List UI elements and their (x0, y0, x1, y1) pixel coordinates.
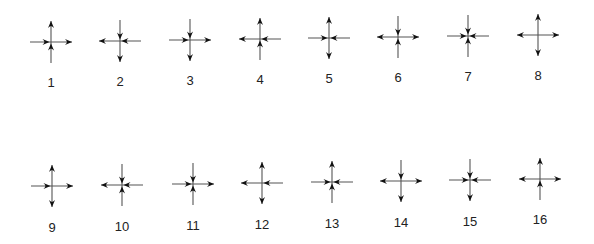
flow-glyph-diagram: 12345678910111213141516 (0, 0, 594, 244)
glyph-number-label: 15 (463, 214, 477, 229)
glyph-number-label: 13 (325, 216, 339, 231)
flow-glyph-8: 8 (517, 14, 559, 83)
glyph-number-label: 4 (256, 72, 263, 87)
flow-glyph-15: 15 (449, 159, 491, 229)
flow-glyph-10: 10 (101, 164, 143, 234)
glyph-number-label: 16 (533, 212, 547, 227)
glyph-grid: 12345678910111213141516 (30, 14, 561, 235)
glyph-number-label: 7 (464, 69, 471, 84)
flow-glyph-11: 11 (172, 163, 214, 233)
flow-glyph-1: 1 (30, 21, 72, 90)
glyph-number-label: 11 (186, 218, 200, 233)
glyph-number-label: 1 (47, 75, 54, 90)
glyph-number-label: 10 (115, 219, 129, 234)
flow-glyph-14: 14 (380, 160, 422, 230)
glyph-number-label: 12 (255, 217, 269, 232)
flow-glyph-5: 5 (308, 17, 350, 86)
glyph-number-label: 2 (116, 74, 123, 89)
glyph-number-label: 14 (394, 215, 408, 230)
flow-glyph-16: 16 (519, 158, 561, 227)
flow-glyph-3: 3 (169, 19, 211, 88)
glyph-number-label: 8 (534, 68, 541, 83)
glyph-number-label: 3 (186, 73, 193, 88)
flow-glyph-13: 13 (311, 161, 353, 231)
flow-glyph-2: 2 (99, 20, 141, 89)
flow-glyph-9: 9 (31, 165, 73, 235)
glyph-number-label: 5 (325, 71, 332, 86)
flow-glyph-12: 12 (241, 162, 283, 232)
glyph-number-label: 6 (394, 70, 401, 85)
flow-glyph-6: 6 (377, 16, 419, 85)
flow-glyph-7: 7 (447, 15, 489, 84)
glyph-number-label: 9 (48, 220, 55, 235)
flow-glyph-4: 4 (239, 18, 281, 87)
